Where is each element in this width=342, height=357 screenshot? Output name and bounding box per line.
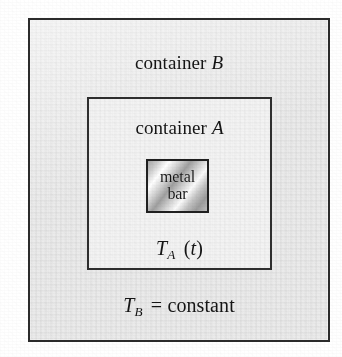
container-b-label-prefix: container bbox=[135, 52, 207, 73]
temperature-a-argument-open: ( bbox=[184, 237, 191, 259]
temperature-b-value: constant bbox=[167, 294, 234, 316]
temperature-a-argument-close: ) bbox=[196, 237, 203, 259]
metal-bar-box: metal bar bbox=[146, 159, 209, 213]
temperature-b-symbol: T bbox=[123, 294, 134, 316]
container-a-label-prefix: container bbox=[135, 117, 207, 138]
container-b-box: containerB containerA metal bar TA(t) TB… bbox=[28, 18, 330, 342]
container-b-temperature-label: TB=constant bbox=[30, 295, 328, 318]
temperature-b-subscript: B bbox=[134, 304, 142, 319]
temperature-a-symbol: T bbox=[156, 237, 167, 259]
container-a-box: containerA metal bar TA(t) bbox=[87, 97, 272, 270]
container-a-temperature-label: TA(t) bbox=[89, 238, 270, 261]
thermal-diagram-figure: containerB containerA metal bar TA(t) TB… bbox=[0, 0, 342, 357]
container-a-label: containerA bbox=[89, 118, 270, 137]
temperature-b-relation: = bbox=[151, 294, 162, 316]
container-a-label-symbol: A bbox=[212, 117, 224, 138]
temperature-a-subscript: A bbox=[167, 247, 175, 262]
metal-bar-label-line1: metal bbox=[160, 169, 195, 186]
container-b-label: containerB bbox=[30, 53, 328, 72]
metal-bar-label-line2: bar bbox=[167, 186, 187, 203]
container-b-label-symbol: B bbox=[211, 52, 223, 73]
